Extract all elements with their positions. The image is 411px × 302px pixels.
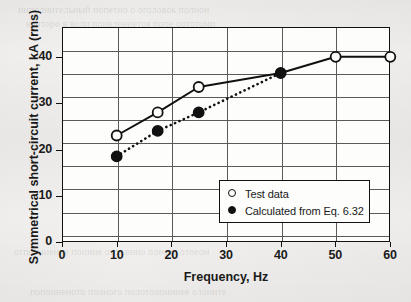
x-axis-tick: [390, 242, 391, 247]
open-circle-icon: [227, 187, 240, 200]
x-axis-tick: [117, 242, 118, 247]
x-axis-tick: [335, 242, 336, 247]
gridline-horizontal: [63, 51, 389, 52]
legend-entry-calculated: Calculated from Eq. 6.32: [227, 202, 369, 219]
x-axis-tick-label: 40: [261, 248, 301, 262]
gridline-vertical: [118, 28, 119, 241]
x-axis-tick-label: 30: [206, 248, 246, 262]
x-axis-tick-label: 10: [97, 248, 137, 262]
filled-circle-icon: [227, 204, 240, 217]
x-axis-tick: [62, 242, 63, 247]
y-axis-tick: [56, 150, 62, 151]
y-axis-tick: [56, 57, 62, 58]
legend: Test data Calculated from Eq. 6.32: [219, 180, 370, 223]
y-axis-tick: [56, 196, 62, 197]
x-axis-tick: [226, 242, 227, 247]
x-axis-tick-label: 0: [42, 248, 82, 262]
gridline-horizontal: [63, 143, 389, 144]
x-axis-tick-label: 50: [315, 248, 355, 262]
figure-root: ииполнительный попетно о оголовок полнои…: [0, 0, 411, 302]
gridline-horizontal: [63, 166, 389, 167]
x-axis-tick-label: 60: [370, 248, 410, 262]
gridline-horizontal: [63, 120, 389, 121]
x-axis-tick: [281, 242, 282, 247]
legend-label: Calculated from Eq. 6.32: [245, 205, 364, 217]
gridline-horizontal: [63, 74, 389, 75]
x-axis-tick-label: 20: [151, 248, 191, 262]
y-axis-tick: [56, 242, 62, 243]
gridline-horizontal: [63, 236, 389, 237]
gridline-vertical: [172, 28, 173, 241]
x-axis-title: Frequency, Hz: [62, 270, 390, 284]
bleed-through-text: ииполнительный попетно о оголовок полнои: [18, 4, 209, 15]
legend-label: Test data: [245, 188, 289, 200]
y-axis-title: Symmetrical short-circuit current, kA (r…: [27, 8, 41, 266]
y-axis-tick: [56, 103, 62, 104]
x-axis-tick: [171, 242, 172, 247]
bleed-through-text: попоиненото полного полотоопиниее олонит…: [30, 286, 226, 297]
gridline-horizontal: [63, 97, 389, 98]
legend-entry-test-data: Test data: [227, 185, 369, 202]
